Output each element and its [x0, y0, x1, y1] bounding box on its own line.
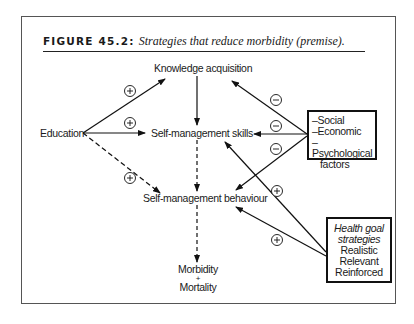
- edge-education-knowledge: [83, 79, 165, 133]
- node-knowledge-acquisition: Knowledge acquisition: [154, 62, 252, 74]
- health-item-reinforced: Reinforced: [328, 267, 390, 278]
- node-self-management-behaviour: Self-management behaviour: [143, 192, 267, 204]
- edge-factors-behaviour: [236, 136, 307, 190]
- factors-box: –Social –Economic –Psychological factors: [307, 110, 377, 160]
- factor-factors: factors: [312, 159, 375, 170]
- node-self-management-skills: Self-management skills: [151, 127, 253, 139]
- mortality-label: Mortality: [178, 282, 218, 293]
- factor-psychological: –Psychological: [312, 137, 375, 159]
- edge-health-behaviour: [236, 207, 326, 256]
- node-education: Education: [40, 127, 84, 139]
- health-goal-box: Health goal strategies Realistic Relevan…: [326, 217, 392, 283]
- node-morbidity-mortality: Morbidity + Mortality: [178, 264, 218, 293]
- factor-economic: –Economic: [312, 126, 375, 137]
- edge-education-behaviour: [83, 133, 160, 193]
